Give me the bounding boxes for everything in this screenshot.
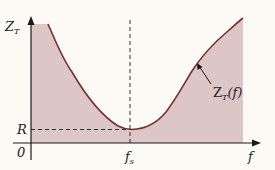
r-label-text: R (17, 122, 27, 137)
x-axis-label: f (248, 150, 253, 163)
shaded-area (31, 18, 243, 143)
r-label: R (17, 123, 27, 136)
curve-label-main: Z (213, 85, 222, 100)
origin-label-text: 0 (17, 145, 25, 160)
curve-label-suffix: (f) (227, 85, 242, 100)
y-axis-arrow-icon (28, 16, 35, 25)
fs-label: fs (125, 150, 134, 166)
x-axis-label-text: f (248, 149, 253, 164)
x-axis-arrow-icon (252, 140, 261, 147)
curve-label: ZT(f) (213, 86, 242, 102)
fs-label-sub: s (130, 157, 134, 166)
y-axis-label: ZT (5, 20, 19, 36)
origin-label: 0 (17, 146, 25, 159)
y-axis-label-main: Z (5, 19, 14, 34)
y-axis-label-sub: T (14, 27, 19, 36)
